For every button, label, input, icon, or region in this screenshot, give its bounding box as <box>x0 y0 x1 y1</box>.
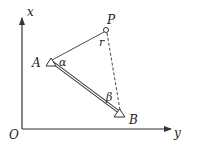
origin-label: O <box>9 128 19 142</box>
point-b-label: B <box>128 113 138 127</box>
distance-r-label: r <box>99 36 105 49</box>
angle-alpha-label: α <box>59 56 67 69</box>
point-p-label: P <box>106 13 116 27</box>
triangulation-diagram: x y O A α B β P r <box>0 0 199 155</box>
point-a-label: A <box>31 56 41 70</box>
angle-beta-label: β <box>105 91 112 104</box>
point-p-circle-icon <box>104 28 109 33</box>
segment-a-b <box>52 62 119 112</box>
vertical-axis-label: x <box>27 5 34 19</box>
horizontal-axis-label: y <box>173 126 181 140</box>
